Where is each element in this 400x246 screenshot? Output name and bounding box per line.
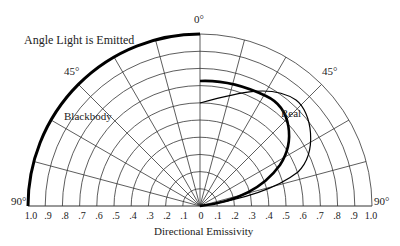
tick-left-0.1: .1 <box>180 211 188 221</box>
angle-label-left-45: 45° <box>64 66 79 77</box>
angle-label-left-90: 90° <box>11 196 26 207</box>
tick-left-0.8: .8 <box>61 211 69 221</box>
tick-left-0.3: .3 <box>146 211 154 221</box>
tick-left-0.2: .2 <box>163 211 171 221</box>
tick-right-1.0: 1.0 <box>365 211 378 221</box>
tick-right-0.1: .1 <box>214 211 222 221</box>
angle-label-0: 0° <box>194 14 204 25</box>
tick-left-0.9: .9 <box>44 211 52 221</box>
angle-label-right-90: 90° <box>374 196 389 207</box>
angle-label-right-45: 45° <box>322 66 337 77</box>
tick-left-1.0: 1.0 <box>25 211 38 221</box>
tick-right-0.9: .9 <box>350 211 358 221</box>
real-label: Real <box>281 108 301 119</box>
tick-right-0.8: .8 <box>333 211 341 221</box>
tick-right-0.4: .4 <box>265 211 273 221</box>
tick-left-0.5: .5 <box>112 211 120 221</box>
title-label: Angle Light is Emitted <box>24 34 134 46</box>
tick-right-0.7: .7 <box>316 211 324 221</box>
tick-right-0.5: .5 <box>282 211 290 221</box>
tick-right-0.3: .3 <box>248 211 256 221</box>
tick-left-0.7: .7 <box>78 211 86 221</box>
tick-left-0.6: .6 <box>95 211 103 221</box>
blackbody-label: Blackbody <box>64 111 112 122</box>
tick-left-0.4: .4 <box>129 211 137 221</box>
axis-label: Directional Emissivity <box>154 226 253 237</box>
tick-right-0.2: .2 <box>231 211 239 221</box>
tick-right-0.6: .6 <box>299 211 307 221</box>
tick-center-0: 0 <box>199 211 204 221</box>
